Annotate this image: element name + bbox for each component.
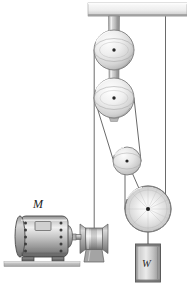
ceiling-beam bbox=[88, 3, 187, 16]
pulley-2 bbox=[94, 78, 134, 118]
pulley-3 bbox=[113, 147, 141, 175]
motor-label: M bbox=[33, 197, 43, 212]
pulley-4 bbox=[125, 186, 171, 232]
pulley-1 bbox=[94, 30, 134, 70]
pulley-system-diagram: M W bbox=[0, 0, 187, 295]
ground-strip bbox=[4, 262, 80, 267]
diagram-canvas bbox=[0, 0, 187, 295]
motor bbox=[15, 216, 76, 262]
weight-label: W bbox=[142, 258, 151, 269]
winch-drum bbox=[72, 224, 108, 262]
